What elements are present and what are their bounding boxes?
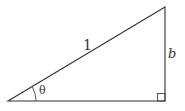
angle-arc [32, 87, 36, 101]
side-b-label: b [168, 46, 176, 61]
angle-theta-label: θ [39, 84, 46, 97]
hypotenuse-label: 1 [83, 37, 92, 53]
triangle-diagram: 1 b θ [0, 0, 185, 111]
right-triangle [8, 7, 165, 101]
right-angle-marker [158, 94, 166, 102]
